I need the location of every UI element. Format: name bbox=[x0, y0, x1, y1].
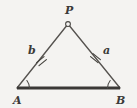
geometry-figure: P A B b a bbox=[0, 0, 137, 108]
vertex-label-A: A bbox=[12, 94, 22, 107]
side-label-b: b bbox=[28, 44, 36, 57]
side-label-a: a bbox=[103, 44, 110, 57]
triangle-diagram-svg: P A B b a bbox=[0, 0, 137, 108]
vertex-label-P: P bbox=[64, 4, 74, 17]
apex-node-circle-icon bbox=[66, 22, 71, 27]
vertex-label-B: B bbox=[115, 94, 125, 107]
